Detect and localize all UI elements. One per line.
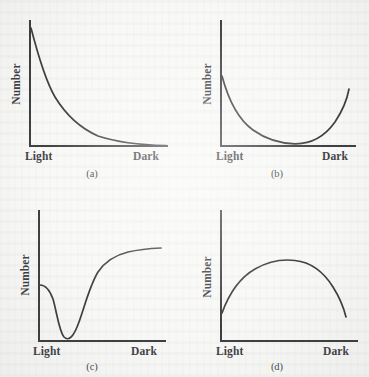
curve-a-exponential-decay (31, 28, 166, 146)
x-tick-right-d: Dark (323, 345, 349, 357)
x-tick-left-c: Light (33, 345, 60, 357)
panel-caption-a: (a) (0, 168, 184, 179)
panel-caption-c: (c) (0, 361, 184, 372)
panel-caption-d: (d) (185, 361, 369, 372)
axis-d (221, 211, 357, 341)
curve-b-u-shaped (222, 76, 349, 144)
chart-panel-c: Number Light Dark (c) (0, 189, 184, 377)
panel-caption-b: (b) (185, 168, 369, 179)
x-tick-right-a: Dark (133, 150, 159, 162)
figure-page: Number Light Dark (a) Number Light Dark … (0, 0, 369, 377)
x-tick-left-b: Light (216, 150, 243, 162)
x-tick-left-d: Light (216, 345, 243, 357)
y-axis-label-a: Number (10, 58, 22, 110)
x-tick-right-b: Dark (322, 150, 348, 162)
axis-a (30, 21, 167, 146)
x-tick-left-a: Light (25, 150, 52, 162)
y-axis-label-d: Number (201, 251, 213, 303)
chart-panel-b: Number Light Dark (b) (185, 0, 369, 188)
y-axis-label-b: Number (201, 58, 213, 110)
curve-d-inverted-u (222, 260, 346, 317)
axis-b (221, 21, 355, 146)
chart-panel-a: Number Light Dark (a) (0, 0, 184, 188)
x-tick-right-c: Dark (131, 345, 157, 357)
curve-c-dip-then-plateau (40, 248, 161, 339)
y-axis-label-c: Number (19, 249, 31, 301)
chart-panel-d: Number Light Dark (d) (185, 189, 369, 377)
